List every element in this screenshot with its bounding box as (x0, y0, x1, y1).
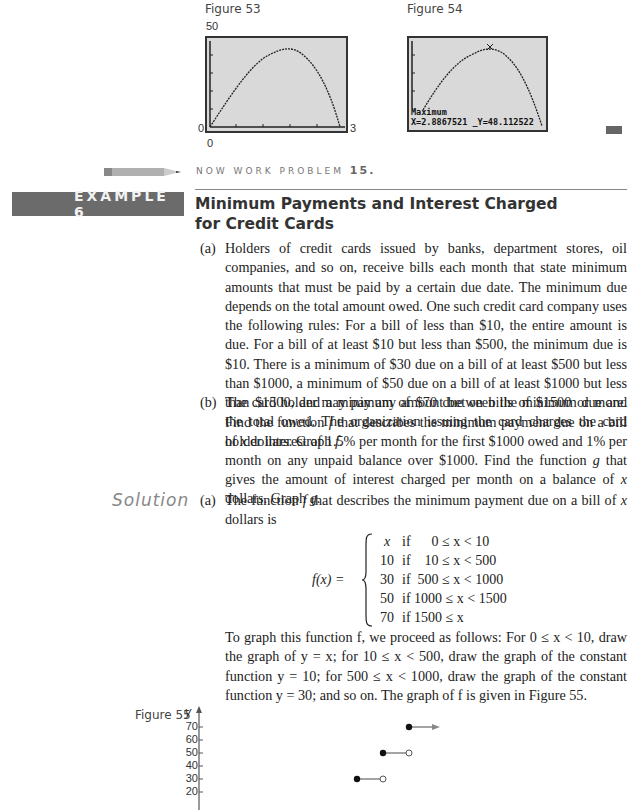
figure-54-calculator-screen: Maximum X=2.8867521 _Y=48.112522 (407, 36, 548, 132)
now-work-problem-link[interactable]: NOW WORK PROBLEM 15. (196, 164, 375, 177)
figure-54-maximum-label: Maximum (411, 108, 447, 117)
figure-53-ymax-label: 50 (206, 20, 218, 32)
figure-53-caption: Figure 53 (205, 2, 261, 16)
piece-row: xif 0 ≤ x < 10 (372, 532, 612, 551)
now-work-prefix: NOW WORK PROBLEM (196, 166, 344, 176)
y-tick-labels: 70 60 50 40 30 20 (185, 720, 198, 798)
solution-a-label: (a) (200, 491, 216, 510)
figure-53-xmin-label: 0 (207, 137, 213, 149)
solution-heading: Solution (112, 490, 189, 510)
figure-53-curve (207, 38, 346, 131)
piecewise-cases: xif 0 ≤ x < 10 10if 10 ≤ x < 500 30if 50… (372, 532, 612, 627)
piecewise-lhs: f(x) = (312, 570, 344, 589)
piece-row: 50if 1000 ≤ x < 1500 (372, 589, 612, 608)
problem-number: 15. (350, 164, 376, 177)
example-title-line1: Minimum Payments and Interest Charged (195, 194, 558, 214)
piece-row: 10if 10 ≤ x < 500 (372, 551, 612, 570)
figure-53-xmax-label: 3 (350, 122, 356, 134)
figure-55-graph (172, 705, 633, 810)
figure-54-caption: Figure 54 (407, 2, 463, 16)
example-title: Minimum Payments and Interest Charged fo… (195, 194, 558, 234)
figure-54-readout: X=2.8867521 _Y=48.112522 (411, 118, 534, 127)
part-b-label: (b) (200, 393, 217, 412)
piece-row: 70if 1500 ≤ x (372, 608, 612, 627)
example-badge: EXAMPLE 6 (12, 192, 184, 216)
end-of-example-marker (606, 126, 622, 134)
figure-53-calculator-screen (205, 36, 348, 133)
example-title-line2: for Credit Cards (195, 214, 558, 234)
piece-row: 30if 500 ≤ x < 1000 (372, 570, 612, 589)
solution-part-a-intro: (a) The function f that describes the mi… (200, 491, 627, 530)
figure-53-ymin-label: 0 (198, 122, 204, 134)
graph-explanation: To graph this function f, we proceed as … (225, 628, 627, 705)
part-a-label: (a) (200, 239, 216, 258)
pencil-icon (104, 163, 182, 181)
section-divider (195, 189, 627, 190)
